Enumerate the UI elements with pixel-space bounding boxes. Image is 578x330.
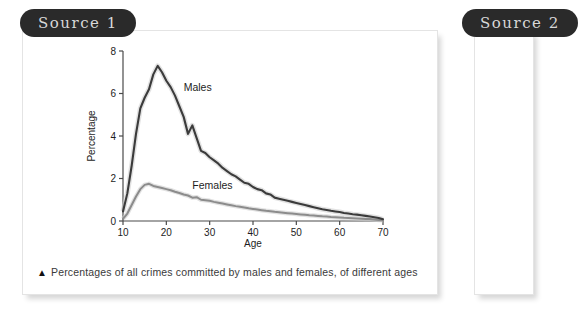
chart-axes	[119, 51, 383, 225]
x-tick-label: 40	[247, 227, 259, 238]
y-axis-title: Percentage	[86, 110, 97, 162]
x-axis-tick-labels: 10203040506070	[117, 227, 389, 238]
y-tick-label: 8	[110, 46, 116, 57]
x-tick-label: 70	[377, 227, 389, 238]
y-tick-label: 0	[110, 216, 116, 227]
series-males-shadow	[123, 66, 383, 219]
x-tick-label: 10	[117, 227, 129, 238]
series-line-males	[123, 66, 383, 219]
crime-percentage-line-chart: 02468 10203040506070 Percentage Age Male…	[83, 45, 393, 250]
source-panel-2	[474, 30, 534, 295]
x-tick-label: 30	[204, 227, 216, 238]
y-tick-label: 2	[110, 173, 116, 184]
y-axis-tick-labels: 02468	[110, 46, 116, 227]
x-tick-label: 50	[291, 227, 303, 238]
y-tick-label: 4	[110, 131, 116, 142]
series-label-males: Males	[184, 81, 212, 93]
series-label-females: Females	[192, 179, 232, 191]
x-axis-ticks	[123, 221, 383, 225]
y-tick-label: 6	[110, 88, 116, 99]
caption-triangle-icon: ▲	[37, 267, 47, 278]
chart-series	[123, 66, 383, 220]
figure-area: 02468 10203040506070 Percentage Age Male…	[23, 31, 437, 259]
x-tick-label: 20	[161, 227, 173, 238]
x-tick-label: 60	[334, 227, 346, 238]
figure-caption: ▲Percentages of all crimes committed by …	[37, 266, 425, 278]
x-axis-title: Age	[244, 238, 262, 249]
source-badge-1[interactable]: Source 1	[20, 9, 136, 37]
source-panel-1: 02468 10203040506070 Percentage Age Male…	[22, 30, 438, 295]
source-badge-2[interactable]: Source 2	[462, 9, 578, 37]
caption-text: Percentages of all crimes committed by m…	[51, 266, 417, 278]
